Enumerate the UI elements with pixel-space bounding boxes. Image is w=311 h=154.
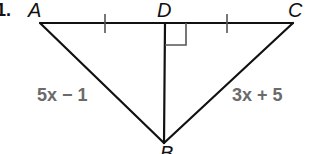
vertex-label-d: D (157, 0, 171, 20)
geometry-diagram: 1. A D C B 5x − 1 3x + 5 (0, 0, 311, 154)
side-label-cb: 3x + 5 (232, 86, 283, 104)
side-label-ab: 5x − 1 (37, 86, 88, 104)
vertex-label-a: A (28, 0, 41, 20)
segment-db (164, 23, 165, 143)
triangle-figure (0, 0, 311, 154)
vertex-label-c: C (288, 0, 302, 20)
vertex-label-b: B (160, 143, 173, 154)
segment-cb (164, 23, 293, 143)
right-angle-marker (165, 23, 186, 45)
segment-ab (40, 23, 164, 143)
